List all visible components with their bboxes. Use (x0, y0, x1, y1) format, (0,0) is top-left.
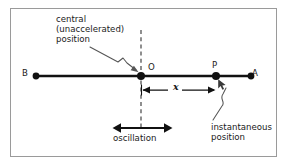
point-dot-P (212, 72, 220, 80)
point-label-B: B (22, 68, 28, 78)
instantaneous-position-leader-line (213, 88, 226, 120)
physics-diagram: central (unaccelerated) position instant… (0, 0, 286, 168)
point-dot-B (33, 73, 40, 80)
oscillation-arrowhead-left (113, 123, 122, 133)
displacement-arrowhead-left (143, 87, 151, 94)
point-label-O: O (148, 62, 155, 72)
point-label-P: P (212, 60, 217, 70)
instantaneous-position-cursor-icon (218, 79, 225, 90)
oscillation-label: oscillation (113, 133, 156, 143)
point-label-A: A (252, 68, 258, 78)
point-dot-O (137, 72, 145, 80)
instantaneous-position-label: instantaneous position (211, 122, 272, 142)
displacement-symbol-label: x (173, 81, 179, 92)
central-position-leader-arrow (90, 47, 136, 70)
oscillation-arrowhead-right (164, 123, 173, 133)
displacement-arrowhead-right (208, 87, 216, 94)
central-position-label: central (unaccelerated) position (56, 14, 124, 44)
